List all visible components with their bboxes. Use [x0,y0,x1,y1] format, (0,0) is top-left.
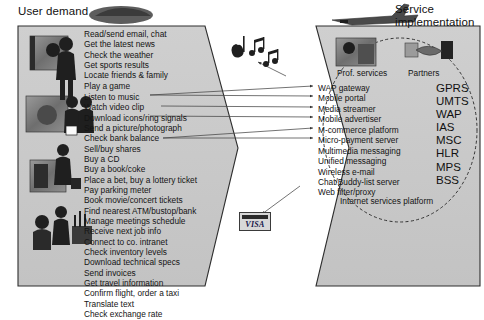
list-item: Download icons/ring signals [84,113,187,123]
list-item: Place a bet, buy a lottery ticket [84,175,197,185]
list-item: Send invoices [84,268,197,278]
list-item: Receive next job info [84,226,197,236]
list-item: Watch video clip [84,102,187,112]
list-item: WAP [436,108,469,121]
visa-card-icon: VISA [239,212,271,231]
list-item: Wireless e-mail [318,167,401,177]
visa-card-stripe [242,215,268,219]
list-item: Check inventory levels [84,247,197,257]
list-item: Check exchange rate [84,309,197,319]
acronym-list: GPRS UMTS WAP IAS MSC HLR MPS BSS [436,82,469,187]
prof-services-image [336,38,376,66]
list-item: Pay parking meter [84,185,197,195]
list-item: Locate friends & family [84,70,168,80]
list-item: Micro-payment server [318,135,401,145]
service-list: WAP gateway Mobile portal Media streamer… [318,83,401,198]
internet-services-platform-label: Internet services platform [340,196,433,206]
list-item: HLR [436,147,469,160]
list-item: Buy a CD [84,154,197,164]
list-item: M-commerce platform [318,125,401,135]
list-item: Mobile portal [318,93,401,103]
list-item: Unified messaging [318,156,401,166]
list-item: Multimedia messaging [318,146,401,156]
list-item: Media streamer [318,104,401,114]
list-item: Find nearest ATM/bustop/bank [84,206,197,216]
list-item: Connect to co. intranet [84,237,197,247]
list-item: Check the weather [84,50,168,60]
list-item: Send a picture/photograph [84,123,187,133]
list-item: Play a game [84,81,168,91]
list-item: Download technical specs [84,257,197,267]
list-item: Manage meetings schedule [84,216,197,226]
list-item: Get travel information [84,278,197,288]
list-item: UMTS [436,95,469,108]
music-notes-icon [232,36,279,67]
list-item: Read/send email, chat [84,29,168,39]
page-title-service-implementation: Service implementation [395,3,474,29]
user-demand-group-1: Read/send email, chat Get the latest new… [84,29,168,91]
list-item: GPRS [436,82,469,95]
car-icon [89,6,153,24]
list-item: Buy a book/coke [84,164,197,174]
list-item: WAP gateway [318,83,401,93]
list-item: Get the latest news [84,39,168,49]
list-item: Translate text [84,299,197,309]
list-item: Listen to music [84,92,187,102]
list-item: BSS [436,174,469,187]
prof-services-label: Prof. services [337,68,387,78]
list-item: IAS [436,121,469,134]
user-demand-group-2: Listen to music Watch video clip Downloa… [84,92,187,154]
list-item: Chat/Buddy-list server [318,177,401,187]
list-item: Confirm flight, order a taxi [84,288,197,298]
list-item: Book movie/concert tickets [84,195,197,205]
list-item: Sell/buy shares [84,144,187,154]
page-title-user-demand: User demand [18,5,88,18]
user-demand-group-3: Buy a CD Buy a book/coke Place a bet, bu… [84,154,197,320]
visa-card-label: VISA [240,220,270,229]
list-item: MSC [436,134,469,147]
list-item: Get sports results [84,60,168,70]
list-item: MPS [436,161,469,174]
list-item: Check bank balance [84,133,187,143]
list-item: Mobile advertiser [318,114,401,124]
partners-label: Partners [408,68,439,78]
